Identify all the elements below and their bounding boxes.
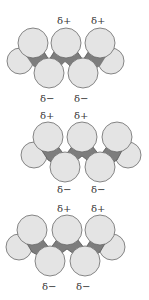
atom-top-3 — [102, 122, 132, 152]
charge-label-bottom: δ− — [76, 281, 90, 292]
atom-top-1 — [17, 215, 47, 245]
molecule-3: δ+ δ+ δ− δ− — [6, 203, 125, 292]
charge-label-bottom: δ− — [91, 184, 105, 195]
molecule-2: δ+ δ+ δ− δ− — [21, 110, 141, 195]
charge-label-bottom: δ− — [57, 184, 71, 195]
charge-label-top: δ+ — [91, 15, 105, 26]
atom-top-2 — [51, 28, 81, 58]
atom-bottom-2 — [70, 246, 100, 276]
charge-label-top: δ+ — [74, 110, 88, 121]
molecule-1: δ+ δ+ δ− δ− — [7, 15, 124, 104]
charge-label-top: δ+ — [91, 203, 105, 214]
charge-label-top: δ+ — [57, 203, 71, 214]
charge-label-top: δ+ — [40, 110, 54, 121]
charge-label-top: δ+ — [57, 15, 71, 26]
atom-top-3 — [85, 28, 115, 58]
atom-bottom-2 — [68, 58, 98, 88]
atom-top-3 — [85, 215, 115, 245]
atom-top-1 — [33, 122, 63, 152]
atom-bottom-1 — [34, 58, 64, 88]
charge-label-bottom: δ− — [40, 93, 54, 104]
atom-bottom-2 — [85, 152, 115, 182]
charge-label-bottom: δ− — [42, 281, 56, 292]
charge-label-bottom: δ− — [74, 93, 88, 104]
atom-bottom-1 — [50, 152, 80, 182]
molecule-diagram: δ+ δ+ δ− δ− δ+ δ+ δ− δ− δ+ δ+ δ− δ− — [0, 0, 149, 300]
atom-bottom-1 — [35, 246, 65, 276]
atom-top-1 — [18, 28, 48, 58]
atom-top-2 — [67, 122, 97, 152]
atom-top-2 — [52, 215, 82, 245]
